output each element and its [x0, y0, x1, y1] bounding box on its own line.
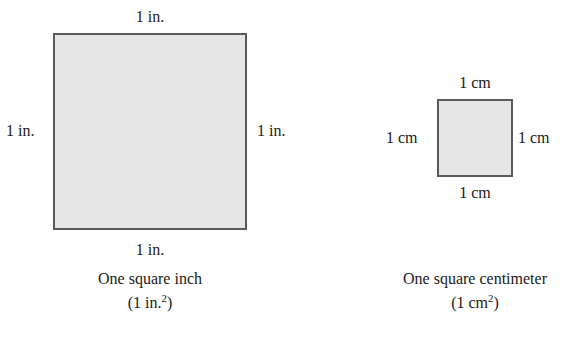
square-centimeter-area-suffix: )	[493, 294, 498, 311]
square-inch-caption-area: (1 in.2)	[29, 293, 271, 313]
figure-stage: 1 in. 1 in. 1 in. 1 in. One square inch …	[0, 0, 576, 339]
square-centimeter-area-prefix: (1 cm	[451, 294, 488, 311]
square-centimeter-top-label: 1 cm	[437, 74, 513, 92]
square-inch-top-label: 1 in.	[53, 8, 247, 26]
square-inch-shape	[53, 33, 247, 230]
square-inch-area-suffix: )	[167, 294, 172, 311]
square-inch-right-label: 1 in.	[257, 122, 285, 140]
square-centimeter-shape	[437, 99, 513, 177]
square-centimeter-bottom-label: 1 cm	[437, 184, 513, 202]
square-centimeter-right-label: 1 cm	[518, 129, 550, 147]
square-inch-area-prefix: (1 in.	[128, 294, 162, 311]
square-centimeter-caption-area: (1 cm2)	[355, 293, 576, 313]
square-inch-caption-name: One square inch	[29, 269, 271, 289]
square-inch-left-label: 1 in.	[6, 122, 34, 140]
square-centimeter-left-label: 1 cm	[386, 129, 418, 147]
square-inch-bottom-label: 1 in.	[53, 241, 247, 259]
square-centimeter-caption-name: One square centimeter	[355, 269, 576, 289]
